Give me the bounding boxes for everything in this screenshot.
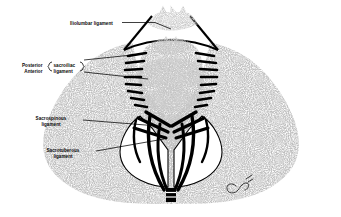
anatomical-figure: Iliolumbar ligament Posterior Anterior s… xyxy=(0,0,341,217)
label-sacroiliac-ligament: sacroiliac ligament xyxy=(54,63,76,75)
label-posterior: Posterior xyxy=(22,63,43,69)
label-sacroiliac-line2: ligament xyxy=(54,69,76,75)
label-anterior: Anterior xyxy=(22,69,43,75)
label-sacrospinous-ligament: Sacrospinous ligament xyxy=(20,116,82,128)
label-sacrotuberous-line2: ligament xyxy=(31,154,95,160)
lumbar-vertebra xyxy=(149,7,197,30)
label-iliolumbar-ligament: Iliolumbar ligament xyxy=(70,21,113,27)
label-sacrotuberous-ligament: Sacrotuberous ligament xyxy=(31,148,95,160)
label-posterior-anterior-group: Posterior Anterior xyxy=(22,63,43,75)
label-sacroiliac-line1: sacroiliac xyxy=(54,63,76,69)
label-sacrospinous-line2: ligament xyxy=(20,122,82,128)
pelvis-illustration xyxy=(0,0,341,217)
coccyx xyxy=(166,188,176,202)
